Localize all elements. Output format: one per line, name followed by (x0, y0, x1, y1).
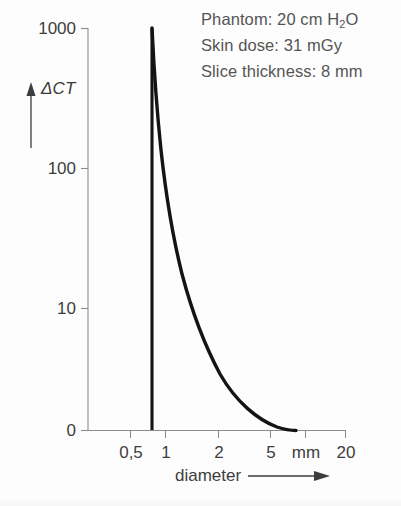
x-tick-label-5: 5 (266, 444, 275, 461)
x-tick-label-2: 2 (214, 444, 223, 461)
annotation-phantom-prefix: Phantom: 20 cm H (201, 10, 339, 28)
y-axis-ticks (81, 29, 88, 431)
x-tick-label-mm-unit: mm (292, 444, 320, 461)
contrast-detail-curve (152, 28, 296, 431)
annotation-phantom: Phantom: 20 cm H2O (201, 10, 358, 29)
y-axis-title: ΔCT (41, 80, 76, 97)
scan-edge-artifact (0, 498, 401, 506)
x-tick-label-0-5: 0,5 (119, 444, 143, 461)
annotation-phantom-suffix: O (345, 10, 358, 28)
x-axis-arrow (248, 471, 330, 481)
annotation-skin-dose: Skin dose: 31 mGy (201, 36, 342, 55)
x-tick-label-20: 20 (337, 444, 356, 461)
x-axis-ticks (131, 430, 346, 438)
y-tick-label-0: 0 (16, 422, 76, 439)
annotation-slice-thickness: Slice thickness: 8 mm (201, 62, 363, 81)
y-axis-arrow (27, 82, 36, 148)
y-tick-label-1000: 1000 (16, 20, 76, 37)
x-tick-label-1: 1 (161, 444, 170, 461)
y-tick-label-10: 10 (16, 300, 76, 317)
annotation-phantom-subscript: 2 (339, 18, 345, 30)
x-axis-title: diameter (175, 467, 241, 484)
figure-canvas: 1000 100 10 0 0,5 1 2 5 mm 20 ΔCT diamet… (0, 0, 401, 506)
y-tick-label-100: 100 (16, 160, 76, 177)
